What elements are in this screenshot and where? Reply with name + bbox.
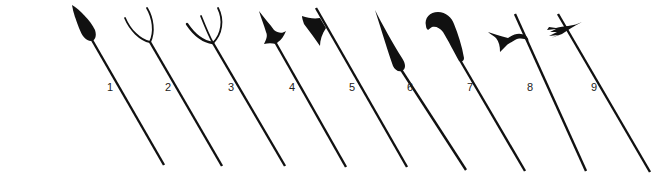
weapon-label-8: 8: [527, 82, 533, 93]
polearm-figure: 1 2 3 4 5 6 7 8 9: [0, 0, 659, 181]
weapon-label-3: 3: [228, 82, 234, 93]
hooked-bill-blade-icon: [426, 12, 525, 171]
weapon-label-1: 1: [107, 82, 113, 93]
weapon-label-9: 9: [591, 82, 597, 93]
winged-halberd-icon: [547, 14, 650, 172]
weapons-drawing: [0, 0, 659, 181]
weapon-label-6: 6: [407, 82, 413, 93]
weapon-label-4: 4: [289, 82, 295, 93]
weapon-label-7: 7: [467, 82, 473, 93]
weapon-label-5: 5: [349, 82, 355, 93]
weapon-label-2: 2: [165, 82, 171, 93]
spear-icon: [72, 5, 164, 165]
